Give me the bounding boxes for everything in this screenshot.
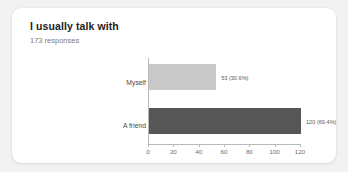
category-label-a-friend: A friend (90, 122, 146, 130)
x-tick-mark (224, 144, 225, 147)
x-tick-mark (173, 144, 174, 147)
x-tick-label: 0 (146, 148, 149, 156)
category-label-myself: Myself (90, 79, 146, 87)
x-tick-label: 40 (195, 148, 202, 156)
bar-value-a-friend: 120 (69.4%) (306, 119, 336, 126)
plot-axis-area: 53 (30.6%) 120 (69.4%) (148, 56, 308, 148)
x-tick-label: 60 (221, 148, 228, 156)
chart-card: I usually talk with 173 responses Myself… (12, 8, 336, 163)
x-tick-label: 100 (269, 148, 279, 156)
bar-chart-plot: Myself A friend 53 (30.6%) 120 (69.4%) 0… (12, 56, 336, 161)
x-tick-mark (199, 144, 200, 147)
category-axis-labels: Myself A friend (90, 64, 146, 142)
x-axis-ticks: 020406080100120 (148, 144, 308, 160)
bar-a-friend (149, 108, 301, 134)
bar-value-myself: 53 (30.6%) (221, 75, 248, 82)
chart-header: I usually talk with 173 responses (30, 20, 324, 46)
x-tick-label: 120 (295, 148, 305, 156)
chart-title: I usually talk with (30, 20, 324, 33)
x-tick-mark (300, 144, 301, 147)
x-tick-label: 20 (170, 148, 177, 156)
page-background: I usually talk with 173 responses Myself… (0, 0, 348, 172)
x-tick-label: 80 (246, 148, 253, 156)
x-tick-mark (148, 144, 149, 147)
response-count: 173 responses (30, 35, 324, 46)
bar-myself (149, 64, 216, 90)
x-tick-mark (275, 144, 276, 147)
x-tick-mark (249, 144, 250, 147)
